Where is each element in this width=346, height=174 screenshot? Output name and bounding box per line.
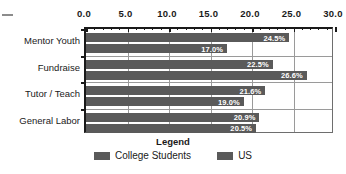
- x-axis-tick-minor: [94, 27, 95, 30]
- x-axis-tick-minor: [202, 27, 203, 30]
- bar-value-label: 26.6%: [281, 71, 303, 80]
- x-axis-tick-minor: [269, 27, 270, 30]
- category-label: Mentor Youth: [0, 35, 80, 46]
- bar-value-label: 17.0%: [201, 44, 223, 53]
- category-label: Fundraise: [0, 61, 80, 72]
- bar-value-label: 21.6%: [239, 86, 261, 95]
- x-axis-tick-major: [169, 27, 171, 32]
- x-tick-label: 20.0: [240, 8, 259, 19]
- y-axis-tick: [81, 56, 86, 58]
- x-tick-label: 15.0: [199, 8, 218, 19]
- bar: 19.0%: [86, 97, 244, 106]
- legend-title: Legend: [0, 136, 346, 147]
- x-axis-tick-minor: [235, 27, 236, 30]
- x-axis-tick-minor: [186, 27, 187, 30]
- bar: 26.6%: [86, 71, 307, 80]
- x-axis-tick-minor: [119, 27, 120, 30]
- legend-items: College StudentsUS: [0, 150, 346, 161]
- x-axis-tick-minor: [177, 27, 178, 30]
- bar: 24.5%: [86, 33, 289, 42]
- category-separator: [86, 56, 332, 57]
- legend-swatch-icon: [94, 152, 110, 160]
- x-axis-tick-minor: [327, 27, 328, 30]
- x-tick-label: 5.0: [119, 8, 133, 19]
- bar-value-label: 19.0%: [218, 97, 240, 106]
- y-axis-tick: [81, 29, 86, 31]
- x-axis-tick-minor: [310, 27, 311, 30]
- x-axis-tick-minor: [111, 27, 112, 30]
- y-axis-tick: [81, 109, 86, 111]
- y-axis-tick: [81, 82, 86, 84]
- bar: 17.0%: [86, 44, 227, 53]
- x-tick-label: 30.0: [323, 8, 342, 19]
- bar-value-label: 20.9%: [234, 113, 256, 122]
- vertical-gridline: [294, 29, 295, 132]
- x-tick-label: 0.0: [77, 8, 91, 19]
- bar: 20.9%: [86, 113, 259, 122]
- x-axis-tick-major: [294, 27, 296, 32]
- bar: 20.5%: [86, 124, 256, 133]
- bar: 22.5%: [86, 60, 273, 69]
- x-axis-tick-minor: [136, 27, 137, 30]
- x-axis-tick-minor: [219, 27, 220, 30]
- x-axis-tick-minor: [260, 27, 261, 30]
- category-separator: [86, 109, 332, 110]
- legend-item[interactable]: College Students: [94, 150, 191, 161]
- x-axis-tick-major: [86, 27, 88, 32]
- legend-label: US: [238, 150, 252, 161]
- bar-value-label: 20.5%: [230, 124, 252, 133]
- bar-value-label: 22.5%: [247, 60, 269, 69]
- x-axis-tick-major: [252, 27, 254, 32]
- x-axis-tick-major: [335, 27, 337, 32]
- x-axis-tick-minor: [244, 27, 245, 30]
- x-axis-tick-minor: [194, 27, 195, 30]
- plot-area: 24.5%17.0%22.5%26.6%21.6%19.0%20.9%20.5%: [84, 27, 333, 133]
- x-axis-tick-minor: [161, 27, 162, 30]
- legend: Legend College StudentsUS: [0, 136, 346, 161]
- x-axis-tick-major: [211, 27, 213, 32]
- legend-label: College Students: [115, 150, 191, 161]
- x-axis-tick-minor: [318, 27, 319, 30]
- x-axis-tick-minor: [144, 27, 145, 30]
- x-axis-tick-minor: [277, 27, 278, 30]
- x-tick-label: 10.0: [157, 8, 176, 19]
- bar-value-label: 24.5%: [264, 33, 286, 42]
- bar: 21.6%: [86, 86, 265, 95]
- x-axis-tick-minor: [152, 27, 153, 30]
- legend-swatch-icon: [217, 152, 233, 160]
- x-axis-tick-minor: [285, 27, 286, 30]
- horizontal-bar-chart: 0.05.010.015.020.025.030.0 Mentor YouthF…: [0, 0, 346, 174]
- legend-item[interactable]: US: [217, 150, 252, 161]
- x-axis-tick-minor: [103, 27, 104, 30]
- category-label: General Labor: [0, 114, 80, 125]
- x-tick-label: 25.0: [282, 8, 301, 19]
- category-label: Tutor / Teach: [0, 88, 80, 99]
- x-axis-tick-major: [128, 27, 130, 32]
- category-separator: [86, 82, 332, 83]
- x-axis-tick-minor: [302, 27, 303, 30]
- x-axis-tick-minor: [227, 27, 228, 30]
